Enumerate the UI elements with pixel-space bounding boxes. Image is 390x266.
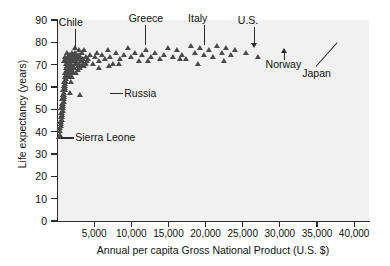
data-point	[219, 49, 225, 54]
data-point	[223, 45, 229, 50]
data-point	[121, 52, 127, 57]
x-axis-title: Annual per capita Gross National Product…	[57, 244, 369, 256]
x-tick-label: 35,000	[302, 229, 333, 239]
data-point	[67, 90, 73, 95]
y-tick	[51, 153, 57, 154]
data-point	[197, 45, 203, 50]
data-point	[165, 45, 171, 50]
data-point	[254, 54, 260, 59]
data-point	[195, 61, 201, 66]
data-point	[243, 49, 249, 54]
data-point	[104, 47, 110, 52]
data-point	[59, 114, 65, 119]
x-tick	[316, 221, 317, 227]
data-point	[95, 65, 101, 70]
data-point	[57, 132, 63, 137]
data-point	[156, 56, 162, 61]
x-tick	[205, 221, 206, 227]
data-point	[176, 56, 182, 61]
annotation-label-u-s: U.S.	[238, 15, 258, 26]
annotation-label-italy: Italy	[188, 13, 207, 24]
data-point	[69, 74, 75, 79]
data-point	[60, 101, 66, 106]
y-tick	[51, 198, 57, 199]
x-tick-label: 5,000	[82, 229, 107, 239]
data-point	[143, 47, 149, 52]
data-point	[139, 52, 145, 57]
data-point	[232, 47, 238, 52]
data-point	[59, 110, 65, 115]
data-point	[161, 52, 167, 57]
data-point	[152, 49, 158, 54]
data-point	[201, 52, 207, 57]
x-tick	[94, 221, 95, 227]
data-point	[81, 47, 87, 52]
annotation-label-japan: Japan	[302, 68, 331, 79]
x-tick-label: 10,000	[116, 229, 147, 239]
x-axis-line	[56, 221, 370, 222]
data-point	[83, 61, 89, 66]
y-tick	[51, 176, 57, 177]
annotation-leader-line	[61, 137, 74, 138]
x-tick	[354, 221, 355, 227]
data-point	[75, 67, 81, 72]
data-point	[113, 49, 119, 54]
data-point	[57, 128, 63, 133]
data-point	[136, 58, 142, 63]
annotation-label-russia: Russia	[124, 88, 156, 99]
data-point	[75, 47, 81, 52]
data-point	[66, 52, 72, 57]
annotation-arrow	[251, 43, 257, 48]
data-point	[210, 54, 216, 59]
annotation-leader-line	[254, 27, 255, 44]
data-point	[77, 92, 83, 97]
x-tick	[242, 221, 243, 227]
annotation-leader-line	[145, 25, 146, 45]
y-axis-title: Life expectancy (years)	[16, 29, 28, 199]
x-tick	[279, 221, 280, 227]
data-point	[228, 52, 234, 57]
x-tick-label: 15,000	[153, 229, 184, 239]
x-tick	[168, 221, 169, 227]
data-point	[170, 54, 176, 59]
y-tick-label: 0	[0, 216, 47, 227]
data-point	[221, 58, 227, 63]
annotation-arrow	[281, 48, 287, 53]
x-tick	[131, 221, 132, 227]
y-tick	[51, 42, 57, 43]
data-point	[58, 119, 64, 124]
data-point	[68, 78, 74, 83]
x-tick-label: 20,000	[190, 229, 221, 239]
x-tick-label: 30,000	[265, 229, 296, 239]
data-point	[145, 58, 151, 63]
data-point	[107, 54, 113, 59]
data-point	[106, 63, 112, 68]
data-point	[192, 49, 198, 54]
annotation-label-norway: Norway	[266, 59, 302, 70]
y-tick-label: 90	[0, 15, 47, 26]
data-point	[214, 43, 220, 48]
data-point	[58, 123, 64, 128]
annotation-leader-line	[204, 25, 205, 45]
y-tick	[51, 109, 57, 110]
data-point	[124, 45, 130, 50]
annotation-label-chile: Chile	[59, 17, 83, 28]
y-tick	[51, 64, 57, 65]
annotation-label-sierra-leone: Sierra Leone	[75, 132, 135, 143]
data-point	[60, 105, 66, 110]
x-tick-label: 25,000	[227, 229, 258, 239]
data-point	[61, 58, 67, 63]
y-tick	[51, 86, 57, 87]
data-point	[188, 43, 194, 48]
data-point	[132, 49, 138, 54]
annotation-label-greece: Greece	[129, 13, 163, 24]
data-point	[128, 54, 134, 59]
y-tick	[51, 220, 57, 221]
scatter-chart: 0102030405060708090 5,00010,00015,00020,…	[0, 0, 390, 266]
data-point	[205, 47, 211, 52]
data-point	[61, 96, 67, 101]
data-point	[62, 83, 68, 88]
x-tick-label: 40,000	[339, 229, 370, 239]
y-tick	[51, 19, 57, 20]
annotation-leader-line	[75, 29, 76, 49]
